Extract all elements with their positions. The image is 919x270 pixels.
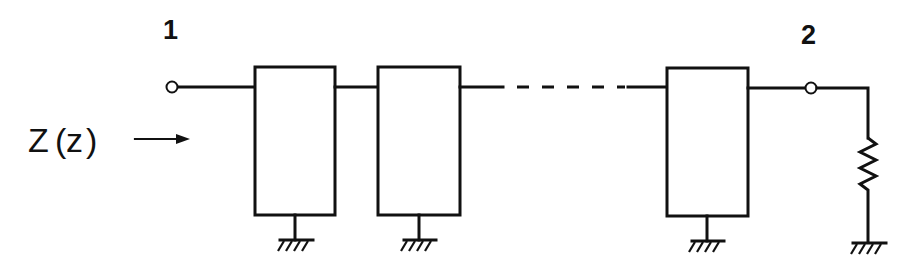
ground-icon-block-n (689, 216, 724, 252)
cascade-network-diagram: 1 2 Z ( z ) (0, 0, 919, 270)
arrow-right-icon (135, 134, 190, 144)
impedance-symbol: Z (28, 121, 49, 159)
port-1-label: 1 (163, 15, 178, 45)
impedance-close-paren: ) (86, 121, 97, 159)
two-port-block-2 (378, 67, 460, 215)
two-port-block-1 (255, 67, 335, 215)
input-impedance-label: Z ( z ) (28, 121, 97, 159)
ground-icon-load (851, 243, 886, 254)
two-port-block-n (667, 68, 748, 216)
terminal-1-icon (167, 82, 178, 93)
resistor-icon (860, 138, 876, 243)
ground-icon-block-1 (278, 215, 313, 251)
impedance-arg: z (66, 121, 83, 159)
ground-icon-block-2 (401, 215, 436, 251)
terminal-2-icon (806, 83, 817, 94)
port-2-label: 2 (801, 20, 816, 50)
wire-to-load (817, 88, 868, 138)
